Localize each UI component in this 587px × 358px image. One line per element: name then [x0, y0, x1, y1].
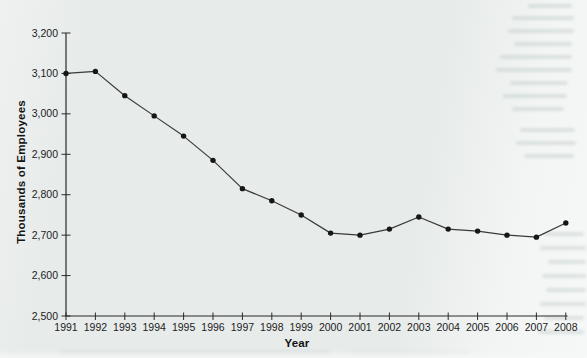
data-point-2003 — [416, 214, 421, 219]
x-tick-label: 1991 — [54, 321, 78, 333]
y-tick-label: 2,700 — [32, 229, 58, 241]
y-tick-label: 2,800 — [32, 188, 58, 200]
y-tick-label: 3,100 — [32, 67, 58, 79]
x-tick-label: 2008 — [554, 321, 578, 333]
x-axis-title: Year — [284, 337, 309, 349]
data-point-2007 — [534, 234, 539, 239]
x-tick-label: 1995 — [172, 321, 196, 333]
data-point-2001 — [357, 232, 362, 237]
x-tick-label: 1999 — [290, 321, 314, 333]
x-tick-label: 2000 — [319, 321, 343, 333]
x-tick-label: 2002 — [378, 321, 402, 333]
y-tick-label: 3,000 — [32, 107, 58, 119]
x-tick-label: 1994 — [143, 321, 167, 333]
x-tick-label: 2001 — [348, 321, 372, 333]
x-tick-label: 2007 — [525, 321, 549, 333]
x-tick-label: 2006 — [495, 321, 519, 333]
data-point-1993 — [122, 93, 127, 98]
y-tick-label: 3,200 — [32, 27, 58, 39]
x-tick-label: 1993 — [113, 321, 137, 333]
line-chart-svg: 2,5002,6002,7002,8002,9003,0003,1003,200… — [0, 0, 587, 358]
x-tick-label: 1997 — [231, 321, 255, 333]
y-tick-label: 2,900 — [32, 148, 58, 160]
y-axis-title: Thousands of Employees — [15, 100, 27, 244]
data-point-1998 — [269, 198, 274, 203]
x-tick-label: 2003 — [407, 321, 431, 333]
data-point-2005 — [475, 228, 480, 233]
data-point-1997 — [240, 186, 245, 191]
employees-line-chart: 2,5002,6002,7002,8002,9003,0003,1003,200… — [0, 0, 587, 358]
y-tick-label: 2,600 — [32, 269, 58, 281]
data-point-2008 — [563, 220, 568, 225]
data-point-1995 — [181, 133, 186, 138]
data-point-1991 — [63, 71, 68, 76]
data-point-1996 — [210, 158, 215, 163]
scanned-page: 2,5002,6002,7002,8002,9003,0003,1003,200… — [0, 0, 587, 358]
data-point-2002 — [387, 226, 392, 231]
data-point-1992 — [93, 69, 98, 74]
data-point-1994 — [152, 113, 157, 118]
data-point-2004 — [446, 226, 451, 231]
x-tick-label: 1996 — [201, 321, 225, 333]
x-tick-label: 2005 — [466, 321, 490, 333]
data-point-1999 — [299, 212, 304, 217]
x-tick-label: 1998 — [260, 321, 284, 333]
data-point-2000 — [328, 230, 333, 235]
axes — [66, 33, 568, 316]
x-tick-label: 2004 — [437, 321, 461, 333]
x-tick-label: 1992 — [84, 321, 108, 333]
data-point-2006 — [504, 232, 509, 237]
y-tick-label: 2,500 — [32, 310, 58, 322]
series-line — [66, 71, 566, 237]
